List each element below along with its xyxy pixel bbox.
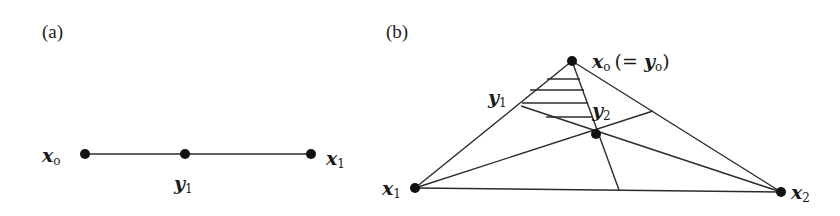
panel-b: (b) xo(= yo) x1 x2 y1 y2 [381, 21, 810, 205]
hatch-region [522, 79, 592, 117]
point-x1 [410, 183, 420, 193]
point-y1 [180, 149, 190, 159]
panel-a-label: (a) [42, 21, 63, 43]
point-x1 [306, 149, 316, 159]
point-x2 [776, 187, 786, 197]
label-y1: y1 [173, 172, 193, 196]
edge-x0-x1 [415, 61, 572, 188]
label-x0: xo [41, 144, 61, 168]
point-x0 [80, 149, 90, 159]
panel-a: (a) xo y1 x1 [41, 21, 345, 196]
panel-b-label: (b) [386, 21, 408, 43]
diagram-canvas: (a) xo y1 x1 (b) xo(= yo) [0, 0, 840, 216]
label-y1: y1 [487, 86, 507, 110]
point-intersection [591, 129, 601, 139]
label-x1: x1 [381, 177, 401, 201]
point-x0 [567, 56, 577, 66]
label-x1: x1 [325, 147, 345, 171]
cevian-x1 [415, 111, 653, 188]
label-y2: y2 [591, 99, 611, 123]
edge-x1-x2 [415, 188, 781, 192]
label-x2: x2 [790, 181, 810, 205]
cevian-x2 [521, 106, 781, 192]
label-x0-equals-y0: xo(= yo) [591, 50, 670, 74]
